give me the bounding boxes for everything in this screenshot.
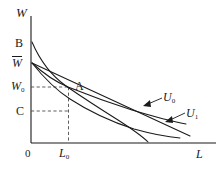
point-label-a: A [75,80,84,92]
u0-subscript: 0 [172,97,176,105]
axis-tick-label-w0: W0 [11,80,25,92]
axis-tick-label-c: C [16,105,24,117]
x-axis-label: L [196,148,203,160]
axis-tick-label-l0: L0 [59,147,69,159]
indifference-curve-u1 [32,63,180,138]
l0-subscript: 0 [66,153,70,161]
u1-base: U [186,106,195,120]
w0-base: W [11,79,21,93]
y-axis-label: W [16,6,27,19]
u0-pointer [143,98,162,107]
w0-subscript: 0 [21,86,25,94]
curve-label-u1: U1 [186,107,198,119]
l0-base: L [59,146,66,160]
wbar-glyph: W [12,56,22,69]
labor-supply-diagram [0,0,224,171]
origin-label: 0 [25,148,31,159]
u0-base: U [163,90,172,104]
u1-subscript: 1 [195,113,199,121]
axis-tick-label-wbar: W [12,56,22,69]
budget-constraint-curve [32,42,148,142]
axis-tick-label-b: B [15,37,23,49]
curve-label-u0: U0 [163,91,175,103]
